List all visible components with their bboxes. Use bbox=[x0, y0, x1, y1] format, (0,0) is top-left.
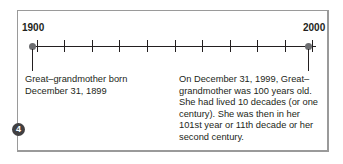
birth-annotation-line: December 31, 1899 bbox=[25, 86, 127, 98]
tick-1970 bbox=[230, 40, 231, 52]
centenary-annotation-line: century). She was then in her bbox=[179, 109, 318, 121]
timeline-axis bbox=[30, 46, 316, 47]
tick-1990 bbox=[285, 40, 286, 52]
tick-1910 bbox=[64, 40, 65, 52]
centenary-annotation-line: She had lived 10 decades (or one bbox=[179, 97, 318, 109]
tick-1920 bbox=[92, 40, 93, 52]
birth-leader-line bbox=[32, 49, 33, 71]
tick-1960 bbox=[202, 40, 203, 52]
centenary-annotation-line: second century. bbox=[179, 132, 318, 144]
step-number-badge: 4 bbox=[12, 123, 25, 136]
tick-1980 bbox=[257, 40, 258, 52]
tick-2000 bbox=[312, 40, 313, 52]
centenary-annotation-line: 101st year or 11th decade or her bbox=[179, 120, 318, 132]
start-year-label: 1900 bbox=[22, 22, 44, 33]
tick-1900 bbox=[37, 40, 38, 52]
tick-1930 bbox=[119, 40, 120, 52]
tick-1950 bbox=[175, 40, 176, 52]
tick-1940 bbox=[147, 40, 148, 52]
birth-annotation-line: Great–grandmother born bbox=[25, 74, 127, 86]
birth-annotation: Great–grandmother born December 31, 1899 bbox=[25, 74, 127, 97]
centenary-leader-line bbox=[308, 49, 309, 71]
centenary-annotation-line: On December 31, 1999, Great– bbox=[179, 74, 318, 86]
end-year-label: 2000 bbox=[303, 22, 325, 33]
centenary-annotation: On December 31, 1999, Great– grandmother… bbox=[179, 74, 318, 144]
centenary-annotation-line: grandmother was 100 years old. bbox=[179, 86, 318, 98]
